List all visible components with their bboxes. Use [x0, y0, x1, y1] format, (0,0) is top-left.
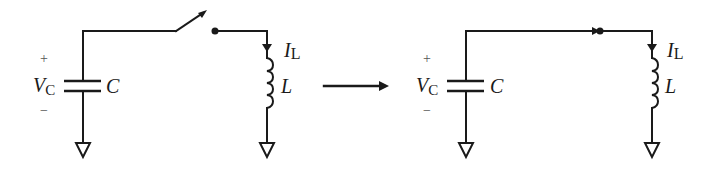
right-inductor-label: L: [664, 75, 676, 97]
right-current-arrow-icon: [647, 44, 657, 52]
left-cap-label: C: [106, 75, 120, 97]
right-circuit: + VC − C IL L: [416, 27, 683, 157]
circuit-diagram: + VC − C IL L + VC − C IL L: [0, 0, 718, 172]
right-inductor-wire-top: [600, 31, 652, 58]
left-switch-blade-tip-icon: [198, 10, 207, 18]
left-cap-wire-top: [83, 31, 176, 81]
left-current-sub: L: [291, 45, 301, 62]
right-inductor-coil-icon: [652, 58, 658, 108]
left-cap-minus-sign: −: [40, 103, 48, 118]
left-circuit: + VC − C IL L: [33, 10, 300, 157]
left-cap-ground-icon: [76, 143, 90, 157]
right-cap-plus-sign: +: [423, 51, 431, 66]
right-cap-wire-top: [466, 31, 596, 81]
right-cap-minus-sign: −: [423, 103, 431, 118]
right-voltage-sub: C: [428, 82, 438, 98]
left-inductor-wire-top: [215, 31, 267, 58]
transition-arrow: [324, 81, 389, 91]
right-inductor-current-label: IL: [666, 39, 683, 62]
left-switch-blade: [176, 13, 203, 31]
transition-arrow-head-icon: [379, 81, 389, 91]
left-inductor-ground-icon: [260, 143, 274, 157]
left-cap-plus-sign: +: [40, 51, 48, 66]
right-inductor-ground-icon: [645, 143, 659, 157]
right-current-sub: L: [674, 45, 684, 62]
left-inductor-label: L: [280, 75, 292, 97]
left-current-arrow-icon: [262, 44, 272, 52]
left-inductor-coil-icon: [267, 58, 273, 108]
right-cap-ground-icon: [459, 143, 473, 157]
left-inductor-current-label: IL: [283, 39, 300, 62]
left-cap-voltage-label: VC: [33, 74, 55, 98]
right-cap-voltage-label: VC: [416, 74, 438, 98]
right-cap-label: C: [490, 75, 504, 97]
left-voltage-sub: C: [45, 82, 55, 98]
